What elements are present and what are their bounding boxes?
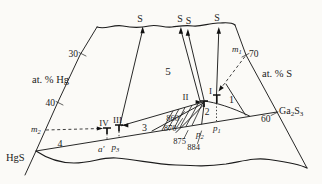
sulfur-up-arrowhead-3 xyxy=(186,29,190,36)
sulfur-label-4: S xyxy=(214,12,220,23)
sulfur-up-arrowhead-4 xyxy=(217,27,221,34)
phase-label-ii: II xyxy=(183,92,189,102)
phase-label-iv: IV xyxy=(99,118,109,128)
m1-arrowhead xyxy=(219,85,224,91)
top-liquidus-curve xyxy=(97,23,235,28)
region-label-1: 1 xyxy=(229,94,234,105)
phase-diagram-canvas: S S S S at. % Hg 30 40 at. % S 70 60 HgS… xyxy=(0,0,322,184)
point-label-m2: m2 xyxy=(31,124,42,135)
phase-label-i: I xyxy=(209,86,212,96)
s-tie-line-2 xyxy=(181,30,200,101)
isotherm-860-line xyxy=(122,102,204,126)
temp-label-870: 870 xyxy=(164,123,177,133)
point-label-m1: m1 xyxy=(232,44,242,55)
point-label-a-prime: a′ xyxy=(98,144,106,154)
hg-axis-title: at. % Hg xyxy=(32,74,70,85)
s-axis-title: at. % S xyxy=(262,68,292,79)
hg-tick-label-30: 30 xyxy=(69,49,79,59)
phase-diagram-figure: S S S S at. % Hg 30 40 at. % S 70 60 HgS… xyxy=(0,0,322,184)
hgs-corner-label: HgS xyxy=(6,152,25,163)
point-label-p3: p3 xyxy=(111,142,121,153)
phase-iii-arrowhead xyxy=(122,123,128,127)
region-label-2: 2 xyxy=(205,107,210,117)
hg-axis-line xyxy=(25,27,97,175)
temp-label-875: 875 xyxy=(173,136,186,146)
temp-label-884: 884 xyxy=(187,142,201,152)
hgs-ga2s3-join-line xyxy=(36,112,277,151)
point-label-p2: p2 xyxy=(195,129,205,140)
m1-tie-dashed-line xyxy=(222,57,246,88)
point-label-p1: p1 xyxy=(212,123,221,134)
s-tie-line-4 xyxy=(217,30,219,95)
sulfur-label-2: S xyxy=(177,13,183,24)
s-tie-line-1 xyxy=(120,30,143,125)
s-tick-label-70: 70 xyxy=(249,49,259,59)
ga2s3-corner-label: Ga2S3 xyxy=(279,105,304,119)
hg-tick-label-40: 40 xyxy=(46,98,56,108)
sulfur-up-arrowhead-2 xyxy=(179,27,183,34)
liquidus-ii-to-join-line xyxy=(204,101,250,116)
region-label-5: 5 xyxy=(165,65,171,77)
temp-label-860: 860 xyxy=(166,113,179,123)
s-axis-line xyxy=(235,25,307,168)
sulfur-label-1: S xyxy=(137,13,143,24)
phase-iv-marker xyxy=(103,128,111,134)
sulfur-label-3: S xyxy=(186,15,192,26)
s-tick-label-60: 60 xyxy=(261,114,271,124)
bottom-boundary-curve xyxy=(36,151,307,168)
region-label-3: 3 xyxy=(142,122,147,133)
phase-label-iii: III xyxy=(113,115,122,125)
phase-i-marker xyxy=(213,95,221,103)
region-label-4: 4 xyxy=(58,138,63,149)
m2-tie-dashed-line xyxy=(46,129,97,130)
